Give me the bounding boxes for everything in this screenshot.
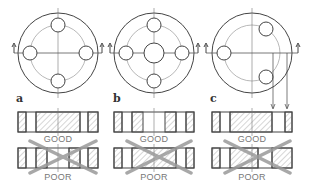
panel-c-good-section bbox=[212, 108, 292, 136]
panel-a-good-caption: GOOD bbox=[28, 134, 88, 144]
panel-c-label: c bbox=[210, 92, 217, 105]
panel-a-poor-caption: POOR bbox=[28, 172, 88, 182]
panel-b-plan-view bbox=[108, 8, 200, 98]
panel-b-good-caption: GOOD bbox=[124, 134, 184, 144]
panel-b-good-section bbox=[114, 108, 194, 136]
panel-b-poor-caption: POOR bbox=[124, 172, 184, 182]
panel-a-good-section bbox=[18, 108, 98, 136]
panel-c-plan-view bbox=[204, 8, 300, 109]
panel-c-poor-caption: POOR bbox=[222, 172, 282, 182]
panel-a-plan-view bbox=[12, 8, 104, 98]
flange-diagram bbox=[0, 0, 310, 193]
panel-c-good-caption: GOOD bbox=[222, 134, 282, 144]
panel-b-label: b bbox=[113, 92, 121, 105]
panel-a-label: a bbox=[16, 92, 23, 105]
